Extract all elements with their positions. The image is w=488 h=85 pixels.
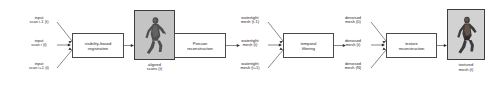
pipeline-diagram: input scan i-1 (t) input scan i (t) inpu… [0, 0, 488, 85]
stage-3-line1: temporal [301, 41, 317, 46]
input-scan-prev-label: input scan i-1 (t) [19, 16, 59, 25]
stage-visibility-based-registration[interactable]: visibility-based registration [72, 33, 124, 58]
input-scan-next-label: input scan i+1 (t) [19, 62, 59, 71]
stage-4-line2: reconstruction [399, 46, 425, 51]
watertight-mesh-next-label: watertight mesh (t+1) [229, 62, 271, 71]
input-scan-prev-line2: scan i-1 (t) [19, 20, 59, 25]
stage-1-line1: visibility-based [85, 41, 112, 46]
input-scan-next-line2: scan i+1 (t) [19, 66, 59, 71]
watertight-curr-line2: mesh (t) [229, 43, 271, 48]
stage-poisson-reconstruction[interactable]: Poisson reconstruction [174, 33, 226, 58]
denoised-mesh-t-label: denoised mesh (t) [333, 39, 373, 48]
dancing-person-textured-image [448, 10, 484, 59]
denoised-t-line2: mesh (t) [333, 43, 373, 48]
denoised-N-line2: mesh (N) [333, 66, 373, 71]
stage-2-line2: reconstruction [187, 46, 213, 51]
watertight-prev-line2: mesh (t-1) [229, 20, 271, 25]
denoised-0-line2: mesh (0) [333, 20, 373, 25]
textured-mesh-thumbnail[interactable] [447, 9, 485, 60]
aligned-scans-thumbnail[interactable] [134, 10, 175, 60]
stage-1-line2: registration [85, 46, 112, 51]
aligned-scans-line2: scans (t) [134, 67, 175, 72]
stage-texture-reconstruction[interactable]: texture reconstruction [386, 33, 437, 58]
dancing-person-point-cloud-image [135, 11, 174, 59]
textured-mesh-caption: textured mesh (t) [446, 63, 486, 72]
input-scan-curr-label: input scan i (t) [19, 39, 59, 48]
aligned-scans-caption: aligned scans (t) [134, 63, 175, 72]
watertight-mesh-curr-label: watertight mesh (t) [229, 39, 271, 48]
stage-temporal-filtering[interactable]: temporal filtering [283, 33, 334, 58]
input-scan-curr-line2: scan i (t) [19, 43, 59, 48]
denoised-mesh-N-label: denoised mesh (N) [333, 62, 373, 71]
watertight-next-line2: mesh (t+1) [229, 66, 271, 71]
denoised-mesh-0-label: denoised mesh (0) [333, 16, 373, 25]
stage-3-line2: filtering [301, 46, 317, 51]
textured-mesh-line2: mesh (t) [446, 68, 486, 73]
watertight-mesh-prev-label: watertight mesh (t-1) [229, 16, 271, 25]
